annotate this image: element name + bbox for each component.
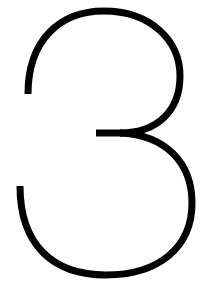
- digit-three-icon: [0, 0, 204, 286]
- digit-three-glyph: 3: [0, 0, 204, 286]
- upper-bowl-stroke: [28, 11, 180, 133]
- lower-bowl-stroke: [20, 133, 192, 275]
